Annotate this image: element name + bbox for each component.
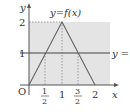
x-tick-2: 2 xyxy=(92,89,98,100)
x-tick-three-halves-numerator: 3 xyxy=(75,87,80,96)
y-axis-label: y xyxy=(19,2,26,13)
origin-label: O xyxy=(18,86,26,97)
line-label: y = xyxy=(111,48,129,59)
function-graph: y y=f(x) 2 1 y = O 1 2 1 3 2 2 x xyxy=(0,0,130,112)
x-tick-three-halves-denominator: 2 xyxy=(75,97,80,106)
y-axis-arrow-icon xyxy=(27,3,31,8)
function-label: y=f(x) xyxy=(49,7,81,18)
x-axis-arrow-icon xyxy=(114,83,119,87)
x-tick-1: 1 xyxy=(59,89,65,100)
x-axis-label: x xyxy=(112,89,118,100)
y-tick-1: 1 xyxy=(19,48,25,59)
y-tick-2: 2 xyxy=(19,17,25,28)
x-tick-half-denominator: 2 xyxy=(42,97,47,106)
x-tick-half-numerator: 1 xyxy=(42,87,47,96)
